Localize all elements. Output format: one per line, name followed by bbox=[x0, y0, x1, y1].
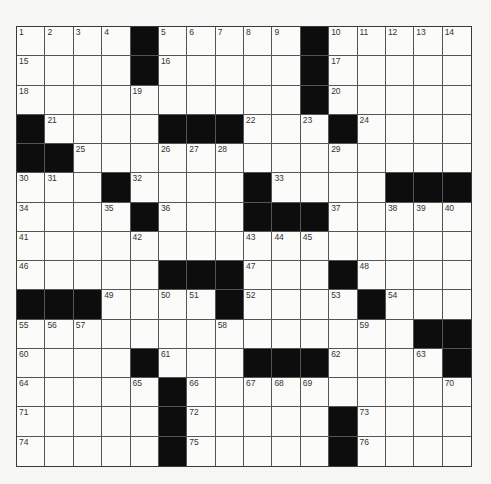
crossword-cell[interactable] bbox=[102, 407, 130, 436]
crossword-cell[interactable] bbox=[443, 56, 471, 85]
crossword-cell[interactable] bbox=[187, 349, 215, 378]
crossword-cell[interactable] bbox=[272, 144, 300, 173]
crossword-cell[interactable] bbox=[272, 437, 300, 466]
crossword-cell[interactable]: 25 bbox=[74, 144, 102, 173]
crossword-cell[interactable] bbox=[216, 203, 244, 232]
crossword-cell[interactable] bbox=[386, 407, 414, 436]
crossword-cell[interactable]: 13 bbox=[414, 27, 442, 56]
crossword-cell[interactable]: 31 bbox=[45, 173, 73, 202]
crossword-cell[interactable] bbox=[358, 378, 386, 407]
crossword-cell[interactable] bbox=[131, 437, 159, 466]
crossword-cell[interactable]: 8 bbox=[244, 27, 272, 56]
crossword-cell[interactable] bbox=[301, 173, 329, 202]
crossword-cell[interactable] bbox=[443, 115, 471, 144]
crossword-cell[interactable]: 16 bbox=[159, 56, 187, 85]
crossword-cell[interactable] bbox=[74, 349, 102, 378]
crossword-cell[interactable] bbox=[159, 232, 187, 261]
crossword-cell[interactable] bbox=[74, 232, 102, 261]
crossword-cell[interactable] bbox=[443, 144, 471, 173]
crossword-cell[interactable] bbox=[45, 203, 73, 232]
crossword-cell[interactable] bbox=[74, 407, 102, 436]
crossword-cell[interactable] bbox=[216, 437, 244, 466]
crossword-cell[interactable] bbox=[102, 261, 130, 290]
crossword-cell[interactable] bbox=[358, 144, 386, 173]
crossword-cell[interactable] bbox=[358, 173, 386, 202]
crossword-cell[interactable] bbox=[386, 320, 414, 349]
crossword-cell[interactable]: 74 bbox=[17, 437, 45, 466]
crossword-cell[interactable] bbox=[329, 320, 357, 349]
crossword-cell[interactable] bbox=[244, 407, 272, 436]
crossword-cell[interactable] bbox=[443, 437, 471, 466]
crossword-cell[interactable]: 70 bbox=[443, 378, 471, 407]
crossword-cell[interactable]: 41 bbox=[17, 232, 45, 261]
crossword-cell[interactable]: 61 bbox=[159, 349, 187, 378]
crossword-cell[interactable] bbox=[301, 261, 329, 290]
crossword-cell[interactable] bbox=[74, 261, 102, 290]
crossword-cell[interactable] bbox=[187, 56, 215, 85]
crossword-cell[interactable] bbox=[272, 261, 300, 290]
crossword-cell[interactable] bbox=[414, 261, 442, 290]
crossword-cell[interactable] bbox=[272, 290, 300, 319]
crossword-cell[interactable]: 3 bbox=[74, 27, 102, 56]
crossword-cell[interactable] bbox=[272, 115, 300, 144]
crossword-cell[interactable] bbox=[443, 407, 471, 436]
crossword-cell[interactable] bbox=[414, 144, 442, 173]
crossword-cell[interactable]: 59 bbox=[358, 320, 386, 349]
crossword-cell[interactable]: 34 bbox=[17, 203, 45, 232]
crossword-cell[interactable]: 11 bbox=[358, 27, 386, 56]
crossword-cell[interactable]: 69 bbox=[301, 378, 329, 407]
crossword-cell[interactable] bbox=[74, 173, 102, 202]
crossword-cell[interactable] bbox=[443, 261, 471, 290]
crossword-cell[interactable]: 4 bbox=[102, 27, 130, 56]
crossword-cell[interactable]: 60 bbox=[17, 349, 45, 378]
crossword-cell[interactable] bbox=[414, 290, 442, 319]
crossword-cell[interactable] bbox=[159, 173, 187, 202]
crossword-cell[interactable] bbox=[244, 144, 272, 173]
crossword-cell[interactable] bbox=[386, 378, 414, 407]
crossword-cell[interactable] bbox=[216, 56, 244, 85]
crossword-cell[interactable] bbox=[45, 437, 73, 466]
crossword-cell[interactable]: 45 bbox=[301, 232, 329, 261]
crossword-cell[interactable]: 65 bbox=[131, 378, 159, 407]
crossword-cell[interactable]: 22 bbox=[244, 115, 272, 144]
crossword-cell[interactable] bbox=[216, 86, 244, 115]
crossword-cell[interactable]: 9 bbox=[272, 27, 300, 56]
crossword-cell[interactable] bbox=[159, 86, 187, 115]
crossword-cell[interactable] bbox=[187, 320, 215, 349]
crossword-cell[interactable] bbox=[386, 437, 414, 466]
crossword-cell[interactable] bbox=[358, 203, 386, 232]
crossword-cell[interactable] bbox=[102, 144, 130, 173]
crossword-cell[interactable] bbox=[74, 86, 102, 115]
crossword-cell[interactable]: 6 bbox=[187, 27, 215, 56]
crossword-cell[interactable] bbox=[386, 144, 414, 173]
crossword-cell[interactable] bbox=[45, 349, 73, 378]
crossword-cell[interactable] bbox=[131, 407, 159, 436]
crossword-cell[interactable]: 46 bbox=[17, 261, 45, 290]
crossword-cell[interactable] bbox=[244, 86, 272, 115]
crossword-cell[interactable]: 75 bbox=[187, 437, 215, 466]
crossword-cell[interactable] bbox=[386, 349, 414, 378]
crossword-cell[interactable]: 54 bbox=[386, 290, 414, 319]
crossword-cell[interactable] bbox=[358, 86, 386, 115]
crossword-cell[interactable] bbox=[301, 290, 329, 319]
crossword-cell[interactable] bbox=[45, 56, 73, 85]
crossword-cell[interactable]: 62 bbox=[329, 349, 357, 378]
crossword-cell[interactable] bbox=[187, 232, 215, 261]
crossword-cell[interactable]: 36 bbox=[159, 203, 187, 232]
crossword-cell[interactable]: 23 bbox=[301, 115, 329, 144]
crossword-cell[interactable] bbox=[74, 378, 102, 407]
crossword-cell[interactable] bbox=[272, 56, 300, 85]
crossword-cell[interactable] bbox=[443, 290, 471, 319]
crossword-cell[interactable] bbox=[131, 115, 159, 144]
crossword-cell[interactable]: 43 bbox=[244, 232, 272, 261]
crossword-cell[interactable] bbox=[45, 378, 73, 407]
crossword-cell[interactable] bbox=[102, 320, 130, 349]
crossword-cell[interactable] bbox=[45, 86, 73, 115]
crossword-cell[interactable] bbox=[244, 437, 272, 466]
crossword-cell[interactable]: 24 bbox=[358, 115, 386, 144]
crossword-cell[interactable]: 15 bbox=[17, 56, 45, 85]
crossword-cell[interactable] bbox=[329, 173, 357, 202]
crossword-cell[interactable]: 68 bbox=[272, 378, 300, 407]
crossword-cell[interactable] bbox=[244, 320, 272, 349]
crossword-cell[interactable]: 2 bbox=[45, 27, 73, 56]
